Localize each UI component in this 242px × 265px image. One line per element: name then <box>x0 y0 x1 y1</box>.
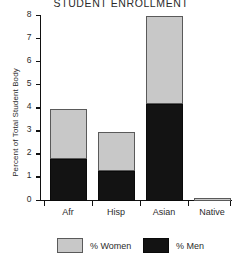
bar-segment-women <box>146 16 183 104</box>
y-tick-label: 5 <box>27 78 32 88</box>
y-tick: 8 <box>36 15 41 16</box>
y-tick-label: 0 <box>27 194 32 204</box>
y-tick: 0 <box>36 200 41 201</box>
chart-legend: % Women % Men <box>0 238 242 260</box>
bar-native: Native <box>194 199 231 201</box>
y-tick: 5 <box>36 84 41 85</box>
x-tick-label-asian: Asian <box>153 207 176 217</box>
y-tick: 6 <box>36 61 41 62</box>
legend-item-women: % Women <box>57 238 131 253</box>
x-tick-label-hisp: Hisp <box>107 207 125 217</box>
bar-segment-men <box>50 159 87 201</box>
y-tick-label: 4 <box>27 101 32 111</box>
bar-segment-women <box>194 198 231 201</box>
y-tick-label: 8 <box>27 9 32 19</box>
y-tick-label: 1 <box>27 170 32 180</box>
bar-segment-women <box>50 109 87 160</box>
legend-label-women: % Women <box>90 241 131 251</box>
y-tick-label: 2 <box>27 147 32 157</box>
bar-segment-men <box>146 104 183 201</box>
x-tick <box>230 201 231 206</box>
x-tick <box>140 201 141 206</box>
bar-asian: Asian <box>146 16 183 201</box>
y-tick-label: 7 <box>27 32 32 42</box>
y-tick: 1 <box>36 176 41 177</box>
legend-swatch-women-icon <box>57 238 83 253</box>
y-tick: 2 <box>36 153 41 154</box>
x-tick <box>188 201 189 206</box>
legend-label-men: % Men <box>176 241 204 251</box>
y-tick: 4 <box>36 107 41 108</box>
y-axis-label: Percent of Total Student Body <box>11 38 20 208</box>
bar-segment-women <box>98 132 135 171</box>
y-axis-line <box>40 16 41 201</box>
plot-area: 012345678 AfrHispAsianNative <box>40 16 232 201</box>
x-tick-label-native: Native <box>199 207 225 217</box>
stacked-bar-chart: STUDENT ENROLLMENT Percent of Total Stud… <box>0 0 242 265</box>
bar-afr: Afr <box>50 109 87 202</box>
bar-segment-men <box>98 171 135 201</box>
bar-hisp: Hisp <box>98 132 135 201</box>
x-tick <box>92 201 93 206</box>
x-tick-label-afr: Afr <box>62 207 74 217</box>
legend-swatch-men-icon <box>143 238 169 253</box>
legend-item-men: % Men <box>143 238 204 253</box>
y-tick-label: 3 <box>27 124 32 134</box>
x-tick <box>44 201 45 206</box>
y-tick: 3 <box>36 130 41 131</box>
y-tick-label: 6 <box>27 55 32 65</box>
chart-title: STUDENT ENROLLMENT <box>0 0 242 9</box>
y-tick: 7 <box>36 38 41 39</box>
